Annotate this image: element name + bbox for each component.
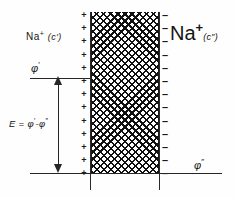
negative-charge-symbol: – (159, 11, 171, 20)
right-species-label: Na+(c″) (170, 20, 218, 45)
potential-inner-prime: ′ (38, 60, 40, 69)
negative-charge-symbol: – (159, 117, 171, 126)
emf-term2-prime: ″ (45, 117, 48, 124)
positive-charge-symbol: + (78, 117, 90, 126)
negative-charge-symbol: – (159, 143, 171, 152)
negative-charge-symbol: – (159, 156, 171, 165)
negative-charge-symbol: – (159, 130, 171, 139)
negative-charge-symbol: – (159, 51, 171, 60)
left-species-charge: + (40, 30, 45, 37)
positive-charge-symbol: + (78, 51, 90, 60)
right-species-concentration: (c″) (203, 32, 218, 42)
emf-lhs: E (9, 118, 16, 129)
positive-charge-symbol: + (78, 64, 90, 73)
negative-charge-symbol: – (159, 103, 171, 112)
potential-outer-label: φ″ (194, 157, 204, 171)
positive-charge-symbol: + (78, 24, 90, 33)
left-species-concentration: (c′) (48, 32, 62, 42)
negative-charge-symbol: – (159, 77, 171, 86)
membrane-wall-left (90, 12, 91, 190)
emf-equation-label: E = φ′-φ″ (9, 117, 48, 129)
positive-charge-symbol: + (78, 37, 90, 46)
potential-outer-prime: ″ (201, 157, 204, 166)
positive-charge-symbol: + (78, 130, 90, 139)
emf-arrow-head-up (54, 76, 62, 85)
positive-charge-symbol: + (78, 103, 90, 112)
positive-charge-column: +++++++++++++ (78, 0, 90, 197)
potential-level-line-outer (30, 173, 222, 174)
membrane-potential-figure: +++++++++++++ ––––––––––––– Na+ (c′) Na+… (0, 0, 235, 197)
positive-charge-symbol: + (78, 156, 90, 165)
emf-arrow-shaft (58, 80, 59, 171)
right-species-ion: Na (170, 22, 196, 44)
negative-charge-symbol: – (159, 64, 171, 73)
positive-charge-symbol: + (78, 90, 90, 99)
negative-charge-symbol: – (159, 90, 171, 99)
left-species-label: Na+ (c′) (26, 30, 62, 42)
positive-charge-symbol: + (78, 11, 90, 20)
left-species-ion: Na (26, 31, 40, 42)
positive-charge-symbol: + (78, 143, 90, 152)
emf-arrow-head-down (54, 164, 62, 173)
potential-inner-label: φ′ (31, 60, 40, 74)
membrane-slab (90, 12, 160, 173)
emf-equals: = (16, 118, 28, 129)
